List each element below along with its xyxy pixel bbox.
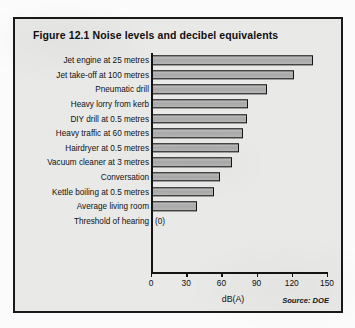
x-axis-tick-label: 120 (285, 278, 299, 288)
bar-row: Hairdryer at 0.5 metres (15, 141, 345, 156)
bar-value-label: (0) (155, 216, 165, 225)
bar (151, 187, 214, 196)
x-axis-line (151, 272, 328, 274)
bar-fill (151, 56, 313, 65)
bar-fill (151, 172, 220, 181)
bar-fill (151, 99, 248, 108)
bar-fill (151, 143, 239, 152)
bar-row: Kettle boiling at 0.5 metres (15, 184, 345, 199)
x-axis-tick-label: 30 (182, 278, 191, 288)
bar-category-label: Jet take-off at 100 metres (56, 70, 149, 79)
y-axis-line (151, 53, 153, 273)
bar (151, 129, 243, 138)
bar-row: Jet engine at 25 metres (15, 53, 345, 68)
x-axis-tick (327, 272, 328, 277)
bar-chart-plot-area: Jet engine at 25 metresJet take-off at 1… (15, 53, 345, 271)
bar-row: Jet take-off at 100 metres (15, 68, 345, 83)
bar-row: DIY drill at 0.5 metres (15, 111, 345, 126)
bar-category-label: Heavy traffic at 60 metres (56, 129, 149, 138)
bar-category-label: Heavy lorry from kerb (71, 100, 149, 109)
bar-row: Average living room (15, 199, 345, 214)
bar-category-label: Pneumatic drill (95, 85, 149, 94)
bar-row: Threshold of hearing(0) (15, 214, 345, 229)
bar (151, 114, 247, 123)
bar-fill (151, 129, 243, 138)
bar-category-label: Kettle boiling at 0.5 metres (52, 187, 149, 196)
bar (151, 202, 197, 211)
bar (151, 85, 267, 94)
bar-fill (151, 202, 197, 211)
figure-panel: Figure 12.1 Noise levels and decibel equ… (13, 17, 343, 313)
x-axis-tick-label: 150 (320, 278, 334, 288)
bar-fill (151, 114, 247, 123)
bar-row: Heavy lorry from kerb (15, 97, 345, 112)
bar-row: Heavy traffic at 60 metres (15, 126, 345, 141)
x-axis-tick-label: 90 (252, 278, 261, 288)
bar-fill (151, 158, 232, 167)
bar-category-label: Vacuum cleaner at 3 metres (47, 158, 149, 167)
x-axis-tick (186, 272, 187, 277)
bar-category-label: Hairdryer at 0.5 metres (65, 143, 149, 152)
bar (151, 99, 248, 108)
bar-category-label: Conversation (101, 173, 149, 182)
x-axis-tick (292, 272, 293, 277)
bar-fill (151, 85, 267, 94)
x-axis-tick (257, 272, 258, 277)
x-axis-tick-label: 60 (217, 278, 226, 288)
bar-row: Pneumatic drill (15, 82, 345, 97)
figure-title: Figure 12.1 Noise levels and decibel equ… (33, 29, 278, 41)
bar-fill (151, 187, 214, 196)
bar (151, 70, 294, 79)
x-axis-tick (221, 272, 222, 277)
bar-category-label: Threshold of hearing (74, 216, 149, 225)
bar-row: Vacuum cleaner at 3 metres (15, 155, 345, 170)
bar-row: Conversation (15, 170, 345, 185)
x-axis-tick-label: 0 (149, 278, 154, 288)
bar (151, 158, 232, 167)
bar-fill (151, 70, 294, 79)
bar (151, 143, 239, 152)
bar-category-label: Average living room (77, 202, 149, 211)
bar-category-label: Jet engine at 25 metres (63, 56, 149, 65)
bar (151, 172, 220, 181)
source-note: Source: DOE (282, 296, 329, 305)
bar-category-label: DIY drill at 0.5 metres (70, 114, 149, 123)
bar (151, 56, 313, 65)
x-axis-tick (151, 272, 152, 277)
